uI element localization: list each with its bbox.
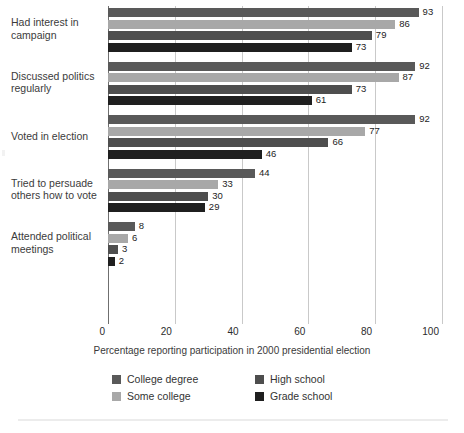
bar-value-label: 79 — [376, 29, 387, 41]
bar — [108, 85, 352, 94]
bar-value-label: 86 — [399, 18, 410, 30]
bar-row: 66 — [108, 138, 442, 147]
bar-row: 87 — [108, 73, 442, 82]
x-tick-label-60: 60 — [294, 326, 308, 338]
bar-group: 93867973 — [108, 8, 442, 52]
bar-value-label: 73 — [356, 41, 367, 53]
x-tick-label-40: 40 — [227, 326, 241, 338]
bar-row: 92 — [108, 62, 442, 71]
x-tick-label-100: 100 — [422, 326, 442, 338]
bar-row: 29 — [108, 203, 442, 212]
bar — [108, 192, 208, 201]
bar-value-label: 46 — [266, 148, 277, 160]
bar — [108, 31, 372, 40]
bar — [108, 115, 415, 124]
bar-row: 46 — [108, 150, 442, 159]
bar-row: 6 — [108, 234, 442, 243]
bar-row: 2 — [108, 257, 442, 266]
bar-row: 61 — [108, 96, 442, 105]
category-label-line: Had interest in — [11, 16, 104, 29]
category-label: Voted in election — [11, 130, 104, 143]
bar-value-label: 93 — [423, 6, 434, 18]
legend-swatch-icon — [255, 392, 264, 401]
legend-item: College degree — [112, 369, 198, 383]
legend-swatch-icon — [112, 375, 121, 384]
bar — [108, 8, 419, 17]
bar-value-label: 61 — [316, 94, 327, 106]
category-label-line: Voted in election — [11, 130, 104, 143]
bar-value-label: 44 — [259, 167, 270, 179]
legend-swatch-icon — [255, 375, 264, 384]
bar — [108, 203, 205, 212]
bar — [108, 234, 128, 243]
plot-area: 0204060801009386797392877361927766464433… — [108, 6, 442, 324]
gridline-20 — [175, 6, 176, 324]
bar — [108, 20, 395, 29]
bar-group: 44333029 — [108, 169, 442, 213]
bar — [108, 62, 415, 71]
bar-row: 92 — [108, 115, 442, 124]
x-tick-label-0: 0 — [99, 326, 108, 338]
y-axis-line — [108, 6, 109, 324]
category-label-line: Tried to persuade — [11, 177, 104, 190]
bottom-divider — [18, 419, 448, 421]
bar — [108, 245, 118, 254]
category-label-line: others how to vote — [11, 189, 104, 202]
gridline-80 — [375, 6, 376, 324]
bar-value-label: 92 — [419, 60, 430, 72]
bar — [108, 73, 399, 82]
x-tick-label-20: 20 — [161, 326, 175, 338]
legend-label: Some college — [127, 390, 191, 402]
bar-row: 86 — [108, 20, 442, 29]
bar-group: 92877361 — [108, 62, 442, 106]
bar-row: 73 — [108, 85, 442, 94]
bar — [108, 150, 262, 159]
bar-value-label: 30 — [212, 190, 223, 202]
bar-value-label: 73 — [356, 83, 367, 95]
bar-row: 8 — [108, 222, 442, 231]
category-label-line: meetings — [11, 243, 104, 256]
bar-value-label: 77 — [369, 125, 380, 137]
category-label-line: Discussed politics — [11, 70, 104, 83]
bar — [108, 222, 135, 231]
legend-label: Grade school — [270, 390, 332, 402]
bar — [108, 43, 352, 52]
bar-row: 93 — [108, 8, 442, 17]
gridline-40 — [242, 6, 243, 324]
legend-item: High school — [255, 369, 325, 383]
bar-row: 44 — [108, 169, 442, 178]
bar-row: 77 — [108, 127, 442, 136]
bar — [108, 96, 312, 105]
bar-value-label: 33 — [222, 178, 233, 190]
bar-row: 73 — [108, 43, 442, 52]
bar-row: 33 — [108, 180, 442, 189]
bar-row: 3 — [108, 245, 442, 254]
gridline-60 — [308, 6, 309, 324]
legend-swatch-icon — [112, 392, 121, 401]
x-axis-title: Percentage reporting participation in 20… — [0, 345, 464, 356]
bar-value-label: 92 — [419, 113, 430, 125]
category-label: Discussed politicsregularly — [11, 70, 104, 95]
bar-row: 79 — [108, 31, 442, 40]
bar-value-label: 8 — [139, 220, 144, 232]
bar-value-label: 87 — [403, 71, 414, 83]
bar-value-label: 29 — [209, 201, 220, 213]
bar — [108, 180, 218, 189]
bar-group: 8632 — [108, 222, 442, 266]
x-tick-label-80: 80 — [361, 326, 375, 338]
bar-value-label: 3 — [122, 243, 127, 255]
legend-label: College degree — [127, 373, 198, 385]
category-label-line: campaign — [11, 29, 104, 42]
bar — [108, 257, 115, 266]
bar-chart: 0204060801009386797392877361927766464433… — [0, 0, 464, 433]
legend-item: Some college — [112, 386, 191, 400]
gridline-100 — [442, 6, 443, 324]
bar-value-label: 66 — [332, 136, 343, 148]
bar — [108, 169, 255, 178]
bar-group: 92776646 — [108, 115, 442, 159]
bar — [108, 127, 365, 136]
bar — [108, 138, 328, 147]
category-label: Had interest incampaign — [11, 16, 104, 41]
legend-label: High school — [270, 373, 325, 385]
category-label-line: regularly — [11, 82, 104, 95]
